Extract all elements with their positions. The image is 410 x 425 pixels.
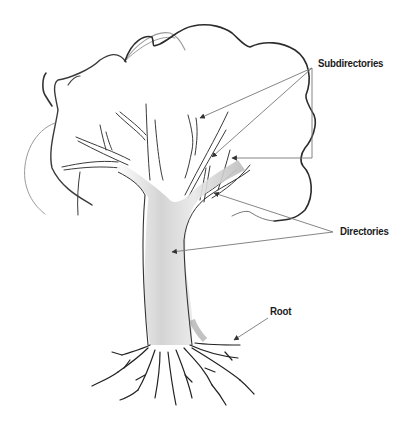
roots	[92, 343, 254, 405]
label-directories: Directories	[340, 225, 389, 237]
arrow-dir-2	[172, 232, 333, 252]
label-root: Root	[270, 305, 291, 317]
arrow-subdir-3	[232, 68, 312, 158]
arrow-subdir-1	[200, 68, 312, 118]
arrow-subdir-2	[212, 68, 312, 157]
canopy-outline	[25, 25, 316, 221]
arrow-root	[234, 318, 268, 340]
trunk	[116, 160, 250, 345]
label-subdirectories: Subdirectories	[318, 57, 383, 69]
arrow-dir-1	[214, 193, 333, 232]
